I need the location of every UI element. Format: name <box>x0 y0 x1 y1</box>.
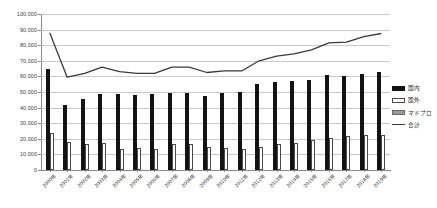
bar-group <box>303 14 320 170</box>
y-tick-label: 80,000 <box>20 42 41 48</box>
x-axis-tick-labels: 2000年2001年2002年2003年2004年2005年2006年2007年… <box>41 172 390 208</box>
bar-group <box>163 14 180 170</box>
bar-group <box>216 14 233 170</box>
bar-overseas <box>329 138 333 170</box>
bar-group <box>128 14 145 170</box>
bar-overseas <box>120 149 124 170</box>
bar-group <box>93 14 110 170</box>
x-tick-label: 2001年 <box>56 172 74 190</box>
bar-overseas <box>277 144 281 170</box>
bar-group <box>373 14 390 170</box>
bar-overseas <box>137 148 141 170</box>
legend-item-domestic[interactable]: 国内 <box>392 84 437 92</box>
legend-swatch-domestic <box>392 86 405 91</box>
bar-overseas <box>85 144 89 170</box>
x-tick-label: 2012年 <box>248 172 266 190</box>
x-tick-label: 2000年 <box>39 172 57 190</box>
y-tick-label: 10,000 <box>20 151 41 157</box>
bar-group <box>146 14 163 170</box>
legend-label: 国内 <box>408 84 420 92</box>
x-tick-label: 2013年 <box>266 172 284 190</box>
x-tick-label: 2018年 <box>353 172 371 190</box>
x-tick-label: 2007年 <box>161 172 179 190</box>
bar-group <box>233 14 250 170</box>
x-tick-label: 2011年 <box>231 172 249 190</box>
legend-label: 合計 <box>408 121 420 129</box>
bar-overseas <box>102 143 106 170</box>
x-tick-label: 2019年 <box>371 172 389 190</box>
bar-overseas <box>172 144 176 170</box>
chart-container: 010,00020,00030,00040,00050,00060,00070,… <box>0 0 437 208</box>
bar-overseas <box>259 147 263 170</box>
legend-swatch-total <box>392 124 405 125</box>
bar-overseas <box>50 133 54 170</box>
y-tick-label: 90,000 <box>20 27 41 33</box>
bar-group <box>320 14 337 170</box>
x-tick-label: 2008年 <box>179 172 197 190</box>
bar-group <box>250 14 267 170</box>
x-axis-line <box>41 170 391 171</box>
bar-overseas <box>294 143 298 170</box>
y-tick-label: 50,000 <box>20 89 41 95</box>
bar-overseas <box>242 149 246 170</box>
bar-group <box>285 14 302 170</box>
bar-overseas <box>189 144 193 170</box>
x-tick-label: 2003年 <box>91 172 109 190</box>
bar-group <box>58 14 75 170</box>
bar-overseas <box>67 142 71 170</box>
bar-overseas <box>224 148 228 170</box>
x-tick-label: 2014年 <box>283 172 301 190</box>
legend-item-overseas[interactable]: 国外 <box>392 96 437 104</box>
plot-area <box>41 14 390 170</box>
x-tick-label: 2005年 <box>126 172 144 190</box>
x-tick-label: 2017年 <box>336 172 354 190</box>
legend-label: マドプロ <box>408 109 432 117</box>
y-tick-label: 70,000 <box>20 58 41 64</box>
x-tick-label: 2009年 <box>196 172 214 190</box>
legend-item-madpro[interactable]: マドプロ <box>392 109 437 117</box>
bar-group <box>76 14 93 170</box>
bar-group <box>268 14 285 170</box>
chart-legend: 国内国外マドプロ合計 <box>392 84 437 129</box>
bar-group <box>198 14 215 170</box>
x-tick-label: 2006年 <box>144 172 162 190</box>
bars-layer <box>41 14 390 170</box>
bar-group <box>355 14 372 170</box>
x-tick-label: 2002年 <box>74 172 92 190</box>
bar-group <box>338 14 355 170</box>
bar-overseas <box>364 135 368 170</box>
bar-group <box>111 14 128 170</box>
bar-overseas <box>381 135 385 170</box>
x-tick-label: 2004年 <box>109 172 127 190</box>
y-tick-label: 60,000 <box>20 73 41 79</box>
y-tick-label: 40,000 <box>20 105 41 111</box>
legend-swatch-madpro <box>392 110 405 115</box>
bar-overseas <box>346 136 350 170</box>
bar-overseas <box>311 140 315 170</box>
x-tick-label: 2015年 <box>301 172 319 190</box>
bar-overseas <box>207 147 211 170</box>
legend-item-total[interactable]: 合計 <box>392 121 437 129</box>
x-tick-label: 2010年 <box>213 172 231 190</box>
bar-group <box>181 14 198 170</box>
bar-overseas <box>154 149 158 170</box>
y-tick-label: 30,000 <box>20 120 41 126</box>
y-tick-label: 100,000 <box>17 11 41 17</box>
bar-group <box>41 14 58 170</box>
y-tick-label: 0 <box>34 167 41 173</box>
legend-label: 国外 <box>408 96 420 104</box>
x-tick-label: 2016年 <box>318 172 336 190</box>
y-tick-label: 20,000 <box>20 136 41 142</box>
legend-swatch-overseas <box>392 98 405 103</box>
